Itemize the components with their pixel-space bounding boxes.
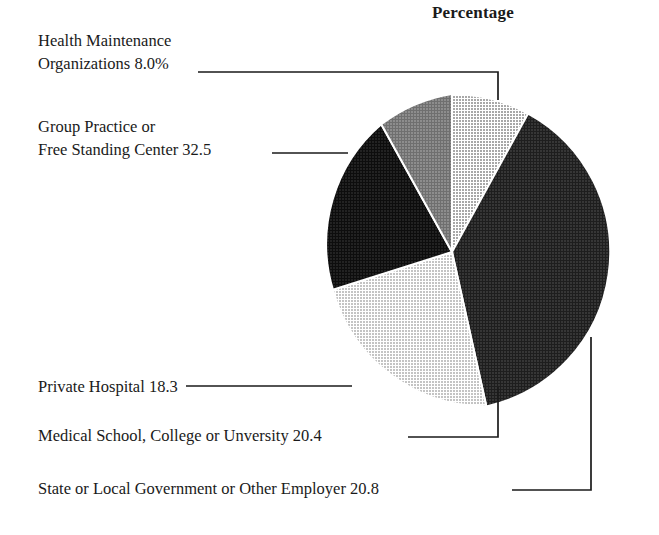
slice-label-group-practice-or-free-standing-center: Group Practice or Free Standing Center 3… [38,115,211,161]
slice-label-line-2: Organizations 8.0% [38,52,171,75]
slice-label-line-1: State or Local Government or Other Emplo… [38,477,379,500]
slice-label-state-or-local-government-or-other-employer: State or Local Government or Other Emplo… [38,477,379,500]
slice-label-line-1: Private Hospital 18.3 [38,375,178,398]
slice-label-line-2: Free Standing Center 32.5 [38,138,211,161]
chart-canvas: Percentage [0,0,659,535]
pie-chart-graphic [0,0,659,535]
slice-label-line-1: Medical School, College or Unversity 20.… [38,424,322,447]
slice-label-medical-school-college-or-unversity: Medical School, College or Unversity 20.… [38,424,322,447]
slice-label-private-hospital: Private Hospital 18.3 [38,375,178,398]
slice-label-line-1: Health Maintenance [38,29,171,52]
slice-label-line-1: Group Practice or [38,115,211,138]
slice-label-health-maintenance-organizations: Health Maintenance Organizations 8.0% [38,29,171,75]
